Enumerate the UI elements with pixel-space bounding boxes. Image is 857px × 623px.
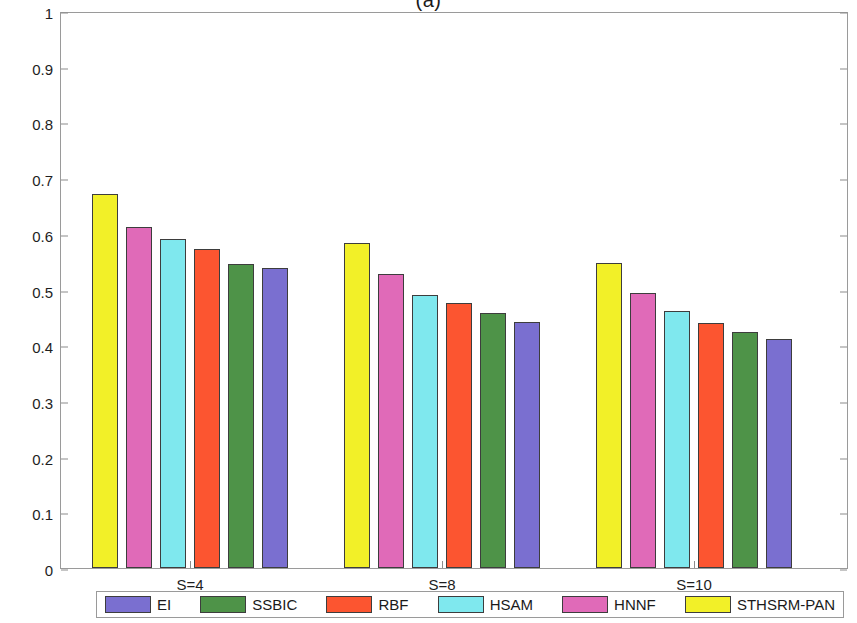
chart-legend: EISSBICRBFHSAMHNNFSTHSRM-PAN xyxy=(96,591,844,618)
legend-swatch-rbf xyxy=(326,596,372,613)
legend-swatch-ssbic xyxy=(200,596,246,613)
y-axis-tick-label: 0.9 xyxy=(9,60,53,77)
bar-sthsrm-pan-s-4 xyxy=(92,194,118,568)
bar-ei-s-8 xyxy=(514,322,540,568)
y-axis-tick-mark-right xyxy=(840,13,847,14)
bar-rbf-s-4 xyxy=(194,249,220,568)
plot-inner: 00.10.20.30.40.50.60.70.80.91 xyxy=(61,13,847,568)
y-axis-tick-mark xyxy=(61,570,68,571)
legend-label-sthsrm-pan: STHSRM-PAN xyxy=(737,596,835,613)
y-axis-tick-label: 0.1 xyxy=(9,506,53,523)
bar-hsam-s-8 xyxy=(412,295,438,568)
legend-swatch-sthsrm-pan xyxy=(685,596,731,613)
y-axis-tick-label: 0.2 xyxy=(9,450,53,467)
y-axis-tick-mark xyxy=(61,514,68,515)
legend-label-ssbic: SSBIC xyxy=(252,596,297,613)
legend-entry-rbf[interactable]: RBF xyxy=(326,596,408,613)
legend-entry-hnnf[interactable]: HNNF xyxy=(562,596,656,613)
y-axis-tick-mark xyxy=(61,13,68,14)
y-axis-tick-label: 1 xyxy=(9,5,53,22)
y-axis-tick-label: 0.3 xyxy=(9,394,53,411)
y-axis-tick-mark-right xyxy=(840,68,847,69)
legend-swatch-hsam xyxy=(438,596,484,613)
bar-ssbic-s-8 xyxy=(480,313,506,568)
y-axis-tick-mark-right xyxy=(840,570,847,571)
legend-entry-ssbic[interactable]: SSBIC xyxy=(200,596,297,613)
legend-entry-ei[interactable]: EI xyxy=(105,596,171,613)
chart-title: (a) xyxy=(0,0,857,12)
y-axis-tick-label: 0.6 xyxy=(9,227,53,244)
legend-swatch-hnnf xyxy=(562,596,608,613)
bar-hsam-s-4 xyxy=(160,239,186,568)
legend-swatch-ei xyxy=(105,596,151,613)
legend-label-ei: EI xyxy=(157,596,171,613)
legend-label-hnnf: HNNF xyxy=(614,596,656,613)
bar-ei-s-10 xyxy=(766,339,792,568)
bar-hnnf-s-8 xyxy=(378,274,404,568)
bar-rbf-s-10 xyxy=(698,323,724,568)
y-axis-tick-mark-right xyxy=(840,514,847,515)
y-axis-tick-mark-right xyxy=(840,458,847,459)
bar-hnnf-s-4 xyxy=(126,227,152,568)
y-axis-tick-label: 0.5 xyxy=(9,283,53,300)
y-axis-tick-label: 0.4 xyxy=(9,339,53,356)
y-axis-tick-mark-right xyxy=(840,180,847,181)
y-axis-tick-label: 0.7 xyxy=(9,172,53,189)
y-axis-tick-mark-right xyxy=(840,235,847,236)
bar-rbf-s-8 xyxy=(446,303,472,568)
y-axis-tick-mark xyxy=(61,68,68,69)
figure-panel-a: (a) 00.10.20.30.40.50.60.70.80.91 S=4S=8… xyxy=(0,0,857,623)
bar-sthsrm-pan-s-10 xyxy=(596,263,622,568)
y-axis-tick-mark-right xyxy=(840,347,847,348)
y-axis-tick-mark-right xyxy=(840,291,847,292)
y-axis-tick-mark xyxy=(61,124,68,125)
y-axis-tick-mark xyxy=(61,402,68,403)
bar-hsam-s-10 xyxy=(664,311,690,568)
bar-ssbic-s-10 xyxy=(732,332,758,568)
bar-sthsrm-pan-s-8 xyxy=(344,243,370,568)
legend-label-rbf: RBF xyxy=(378,596,408,613)
y-axis-tick-mark xyxy=(61,458,68,459)
y-axis-tick-mark-right xyxy=(840,402,847,403)
x-axis-tick-mark xyxy=(694,561,695,568)
y-axis-tick-mark-right xyxy=(840,124,847,125)
legend-label-hsam: HSAM xyxy=(490,596,533,613)
y-axis-tick-label: 0.8 xyxy=(9,116,53,133)
y-axis-tick-label: 0 xyxy=(9,562,53,579)
y-axis-tick-mark xyxy=(61,291,68,292)
bar-ssbic-s-4 xyxy=(228,264,254,568)
x-axis-tick-mark xyxy=(442,561,443,568)
x-axis-tick-mark xyxy=(190,561,191,568)
legend-entry-hsam[interactable]: HSAM xyxy=(438,596,533,613)
plot-area: 00.10.20.30.40.50.60.70.80.91 S=4S=8S=10 xyxy=(60,12,848,569)
y-axis-tick-mark xyxy=(61,235,68,236)
bar-ei-s-4 xyxy=(262,268,288,568)
legend-entry-sthsrm-pan[interactable]: STHSRM-PAN xyxy=(685,596,835,613)
y-axis-tick-mark xyxy=(61,347,68,348)
bar-hnnf-s-10 xyxy=(630,293,656,568)
y-axis-tick-mark xyxy=(61,180,68,181)
